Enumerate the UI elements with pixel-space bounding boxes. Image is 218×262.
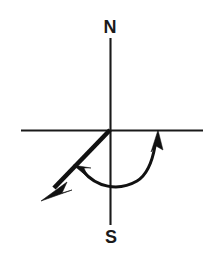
south-label: S bbox=[105, 227, 117, 247]
bearing-diagram-canvas: N S bbox=[0, 0, 218, 262]
bearing-diagram-figure: N S bbox=[0, 0, 218, 262]
north-label: N bbox=[104, 17, 117, 37]
